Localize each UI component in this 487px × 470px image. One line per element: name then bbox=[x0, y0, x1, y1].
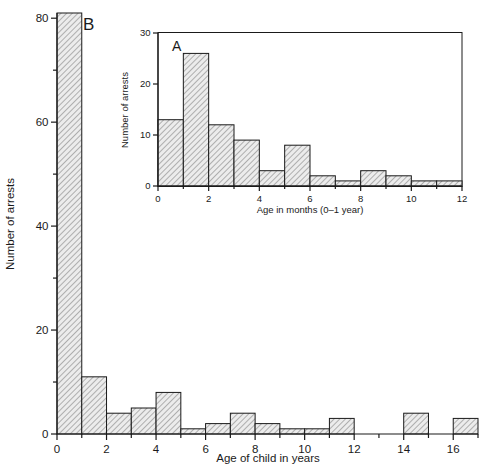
histogram-bar bbox=[305, 429, 330, 434]
histogram-bar bbox=[335, 181, 360, 186]
histogram-bar bbox=[181, 429, 206, 434]
histogram-bar bbox=[156, 392, 181, 434]
x-tick-label: 0 bbox=[54, 443, 60, 455]
y-tick-label: 40 bbox=[36, 220, 49, 232]
histogram-bar bbox=[230, 413, 255, 434]
panel-a-x-axis-title: Age in months (0–1 year) bbox=[257, 204, 364, 215]
x-tick-label: 6 bbox=[202, 443, 208, 455]
x-tick-label: 12 bbox=[348, 443, 361, 455]
histogram-bar bbox=[259, 171, 284, 186]
histogram-bar bbox=[361, 171, 386, 186]
histogram-bar bbox=[107, 413, 132, 434]
histogram-bar bbox=[82, 377, 107, 434]
x-tick-label: 6 bbox=[307, 193, 312, 204]
histogram-bar bbox=[453, 418, 478, 434]
panel-a-y-axis-title: Number of arrests bbox=[119, 72, 130, 148]
histogram-bar bbox=[158, 120, 183, 186]
histogram-bar bbox=[280, 429, 305, 434]
histogram-bar bbox=[209, 125, 234, 186]
panel-b-y-axis-title: Number of arrests bbox=[4, 178, 16, 270]
histogram-bar bbox=[206, 424, 231, 434]
histogram-bar bbox=[255, 424, 280, 434]
histogram-bar bbox=[183, 53, 208, 186]
x-tick-label: 2 bbox=[103, 443, 109, 455]
x-tick-label: 2 bbox=[206, 193, 211, 204]
panel-a-inset: 0102030024681012 A Age in months (0–1 ye… bbox=[119, 27, 467, 215]
x-tick-label: 14 bbox=[397, 443, 410, 455]
panel-b-letter: B bbox=[83, 15, 94, 34]
histogram-bar bbox=[386, 176, 411, 186]
x-tick-label: 4 bbox=[257, 193, 262, 204]
figure-container: 0204060800246810121416 B Age of child in… bbox=[0, 0, 487, 470]
x-tick-label: 0 bbox=[155, 193, 160, 204]
panel-b-x-axis-title: Age of child in years bbox=[216, 452, 320, 464]
x-tick-label: 10 bbox=[406, 193, 417, 204]
x-tick-label: 16 bbox=[447, 443, 460, 455]
histogram-bar bbox=[131, 408, 156, 434]
histogram-bar bbox=[437, 181, 462, 186]
histogram-bar bbox=[310, 176, 335, 186]
histogram-bar bbox=[234, 140, 259, 186]
y-tick-label: 0 bbox=[42, 428, 48, 440]
histogram-bar bbox=[57, 13, 82, 434]
histogram-figure: 0204060800246810121416 B Age of child in… bbox=[0, 0, 487, 470]
y-tick-label: 20 bbox=[36, 324, 49, 336]
y-tick-label: 60 bbox=[36, 116, 49, 128]
y-tick-label: 0 bbox=[145, 180, 150, 191]
panel-a-letter: A bbox=[172, 38, 182, 54]
x-tick-label: 12 bbox=[457, 193, 468, 204]
y-tick-label: 20 bbox=[140, 78, 151, 89]
y-tick-label: 30 bbox=[140, 27, 151, 38]
histogram-bar bbox=[285, 145, 310, 186]
x-tick-label: 4 bbox=[153, 443, 160, 455]
histogram-bar bbox=[411, 181, 436, 186]
x-tick-label: 8 bbox=[358, 193, 363, 204]
histogram-bar bbox=[404, 413, 429, 434]
histogram-bar bbox=[329, 418, 354, 434]
y-tick-label: 10 bbox=[140, 129, 151, 140]
y-tick-label: 80 bbox=[36, 12, 49, 24]
